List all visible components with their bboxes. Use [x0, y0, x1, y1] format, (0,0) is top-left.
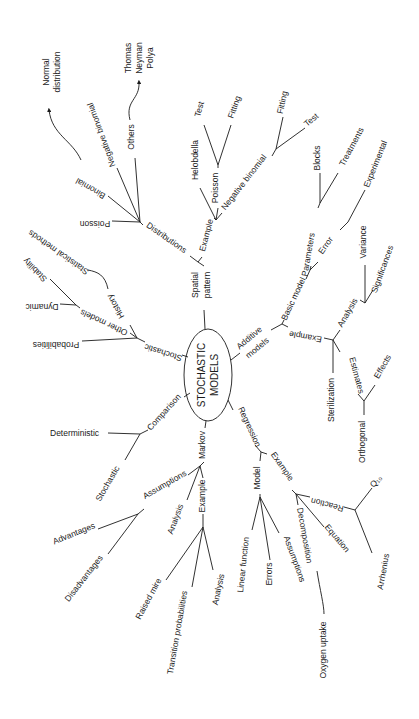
- comparison-stochastic-label: Stochastic: [93, 463, 122, 503]
- branch-spatial-pattern: Spatial pattern Example Helobdella Poiss…: [41, 42, 321, 329]
- normal-distribution-label-1: Normal: [41, 58, 51, 86]
- normal-distribution-label-2: distribution: [52, 51, 62, 92]
- nb-fitting-label: Fitting: [275, 90, 290, 115]
- markov-analysis2-label: Analysis: [210, 573, 226, 606]
- significances-label: Significances: [369, 244, 396, 294]
- markov-assumptions-label: Assumptions: [141, 468, 188, 501]
- dist-poisson-label: Poisson: [80, 219, 111, 229]
- disadvantages-label: Disadvantages: [62, 553, 105, 603]
- effects-label: Effects: [372, 353, 394, 380]
- errors-label: Errors: [264, 562, 274, 585]
- experimental-label: Experimental: [361, 139, 389, 189]
- dist-others-label: Others: [126, 124, 136, 150]
- distributions-label: Distributions: [145, 220, 189, 255]
- mind-map-diagram: STOCHASTIC MODELS Spatial pattern Exampl…: [0, 0, 419, 719]
- analysis-label: Analysis: [335, 296, 359, 328]
- error-label: Error: [316, 235, 335, 256]
- variance-label: Variance: [358, 225, 368, 258]
- branch-stochastic: Stochastic Probabilities Other models Dy…: [20, 228, 188, 364]
- additive-example-label: Example: [288, 329, 323, 345]
- history-label: History: [104, 292, 126, 321]
- dist-binomial-label: Binomial: [74, 176, 107, 201]
- poisson-fitting-label: Fitting: [226, 94, 243, 119]
- transition-probabilities-label: Transition probabilities: [165, 590, 190, 675]
- center-node: STOCHASTIC MODELS: [184, 329, 232, 421]
- deterministic-label: Deterministic: [50, 428, 100, 438]
- linear-function-label: Linear function: [235, 536, 251, 593]
- poisson-label: Poisson: [210, 173, 220, 204]
- orthogonal-label: Orthogonal: [357, 421, 367, 463]
- spatial-pattern-label-1: Spatial: [190, 272, 200, 298]
- regression-label: Regression: [236, 405, 263, 448]
- arrhenius-label: Arrhenius: [375, 553, 391, 591]
- oxygen-uptake-label: Oxygen uptake: [318, 621, 328, 678]
- nb-test-label: Test: [302, 110, 321, 128]
- helobdella-label: Helobdella: [190, 140, 200, 180]
- markov-label: Markov: [197, 430, 207, 459]
- basic-model-label: Basic model: [279, 276, 308, 322]
- spatial-example-label: Example: [197, 218, 215, 253]
- parameters-label: Parameters: [299, 232, 316, 277]
- blocks-label: Blocks: [312, 145, 322, 170]
- branch-markov: Markov Assumptions Advantages Disadvanta…: [51, 421, 226, 675]
- equation-label: Equation: [323, 522, 352, 554]
- advantages-label: Advantages: [51, 520, 96, 546]
- stochastic-label: Stochastic: [142, 342, 183, 364]
- regression-model-label: Model: [252, 466, 262, 489]
- negative-binomial-label: Negative binomial: [219, 152, 269, 211]
- comparison-label: Comparison: [145, 391, 183, 432]
- probabilities-label: Probabilities: [33, 340, 79, 350]
- sterilization-label: Sterilization: [326, 378, 336, 422]
- tnp-label-3: Polya: [145, 47, 155, 69]
- estimates-label: Estimates: [347, 356, 366, 395]
- spatial-pattern-label-2: pattern: [202, 271, 212, 298]
- reaction-label: Reaction: [309, 496, 344, 514]
- stability-label: Stability: [20, 256, 49, 285]
- markov-example-label: Example: [197, 479, 207, 512]
- dist-negative-binomial-label: Negative binomial: [85, 101, 118, 168]
- raised-mire-label: Raised mire: [133, 576, 163, 621]
- markov-analysis-label: Analysis: [165, 502, 185, 535]
- treatments-label: Treatments: [337, 125, 366, 167]
- center-ellipse: [184, 329, 232, 421]
- dynamic-label: Dynamic: [25, 302, 59, 312]
- tnp-label-2: Neyman: [134, 42, 144, 74]
- branch-additive-models: Additive models Basic model Parameters B…: [231, 125, 395, 463]
- tnp-label-1: Thomas: [123, 43, 133, 74]
- mind-map-svg: STOCHASTIC MODELS Spatial pattern Exampl…: [0, 0, 419, 719]
- q10-label: Q₁₀: [368, 473, 384, 490]
- center-title-line2: MODELS: [209, 354, 220, 397]
- center-title-line1: STOCHASTIC: [196, 343, 207, 407]
- poisson-test-label: Test: [192, 100, 206, 118]
- regression-example-label: Example: [269, 450, 296, 483]
